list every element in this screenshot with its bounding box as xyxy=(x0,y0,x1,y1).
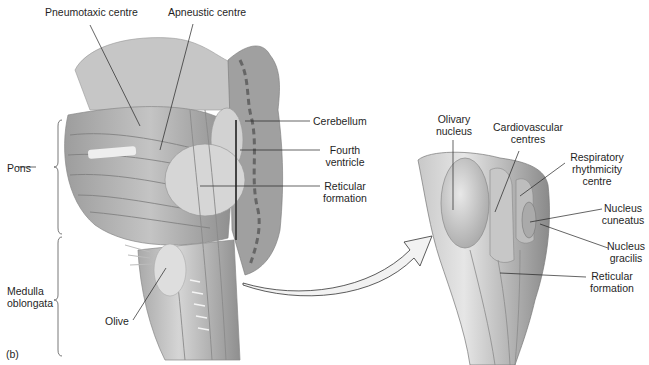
label-line: ventricle xyxy=(320,156,370,168)
label-pons: Pons xyxy=(7,162,31,174)
label-cerebellum: Cerebellum xyxy=(313,115,367,127)
label-nucleus-gracilis: Nucleus gracilis xyxy=(606,240,646,264)
label-line: Nucleus xyxy=(600,202,646,214)
label-reticular-formation-right: Reticular formation xyxy=(586,270,638,294)
region-braces xyxy=(54,120,62,356)
label-apneustic-centre: Apneustic centre xyxy=(168,6,246,18)
label-pneumotaxic-centre: Pneumotaxic centre xyxy=(45,6,138,18)
label-line: Olivary xyxy=(430,113,478,125)
label-line: formation xyxy=(586,282,638,294)
label-line: gracilis xyxy=(606,252,646,264)
label-line: centre xyxy=(565,175,629,187)
label-nucleus-cuneatus: Nucleus cuneatus xyxy=(600,202,646,226)
label-line: Fourth xyxy=(320,144,370,156)
label-respiratory-rhythmicity-centre: Respiratory rhythmicity centre xyxy=(565,151,629,187)
label-medulla-oblongata: Medulla oblongata xyxy=(7,285,53,309)
label-line: Reticular xyxy=(586,270,638,282)
label-cardiovascular-centres: Cardiovascular centres xyxy=(490,121,566,145)
label-line: Cardiovascular xyxy=(490,121,566,133)
label-reticular-formation-left: Reticular formation xyxy=(320,180,370,204)
label-olivary-nucleus: Olivary nucleus xyxy=(430,113,478,137)
label-line: Medulla xyxy=(7,285,53,297)
label-line: Respiratory xyxy=(565,151,629,163)
panel-label: (b) xyxy=(6,348,19,360)
label-fourth-ventricle: Fourth ventricle xyxy=(320,144,370,168)
label-line: nucleus xyxy=(430,125,478,137)
right-medulla-drawing xyxy=(418,152,549,365)
label-line: Reticular xyxy=(320,180,370,192)
label-line: formation xyxy=(320,192,370,204)
label-line: oblongata xyxy=(7,297,53,309)
label-line: rhythmicity xyxy=(565,163,629,175)
label-line: centres xyxy=(490,133,566,145)
label-olive: Olive xyxy=(105,315,129,327)
left-brainstem-drawing xyxy=(65,38,283,360)
label-line: cuneatus xyxy=(600,214,646,226)
label-line: Nucleus xyxy=(606,240,646,252)
